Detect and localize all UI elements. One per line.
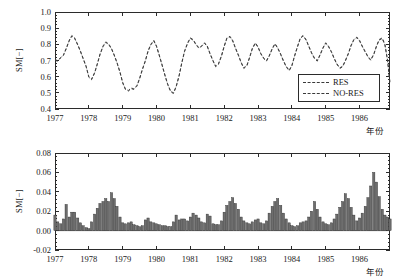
bar: [364, 206, 366, 230]
bar: [161, 226, 163, 231]
bar: [333, 219, 335, 231]
bar: [200, 222, 202, 231]
bar: [268, 213, 270, 230]
bar: [172, 222, 174, 231]
bar: [90, 222, 92, 231]
bar: [386, 217, 388, 231]
bar: [373, 172, 375, 230]
bar: [164, 226, 166, 231]
bar: [170, 227, 172, 231]
bar: [119, 217, 121, 231]
bar: [339, 207, 341, 230]
bar: [82, 226, 84, 231]
bar: [237, 209, 239, 230]
bar: [209, 216, 211, 231]
bar: [138, 227, 140, 231]
bar: [71, 212, 73, 230]
bar: [229, 202, 231, 231]
bar: [310, 211, 312, 230]
bar: [302, 222, 304, 231]
bar: [232, 198, 234, 231]
bar: [144, 220, 146, 231]
bar: [73, 212, 75, 230]
bar: [381, 209, 383, 230]
bar: [116, 206, 118, 230]
bar: [234, 203, 236, 230]
bar: [212, 224, 214, 231]
bar: [389, 219, 391, 231]
bar: [271, 206, 273, 230]
bar: [341, 202, 343, 231]
bar: [183, 219, 185, 231]
bar: [93, 214, 95, 230]
bar: [105, 199, 107, 231]
bar: [77, 218, 79, 231]
bar: [299, 223, 301, 231]
bar: [68, 217, 70, 231]
bar: [347, 199, 349, 231]
bar: [251, 222, 253, 231]
bar: [316, 209, 318, 230]
bar: [327, 225, 329, 231]
bar: [248, 224, 250, 231]
bar: [102, 202, 104, 231]
bar: [384, 215, 386, 231]
bar: [367, 198, 369, 231]
bar: [223, 212, 225, 230]
bar: [215, 225, 217, 231]
bar: [147, 218, 149, 231]
bar: [107, 202, 109, 231]
bar: [263, 224, 265, 231]
bar: [322, 222, 324, 231]
bar: [158, 225, 160, 231]
bar: [130, 222, 132, 231]
bar: [291, 226, 293, 231]
bar: [350, 207, 352, 230]
bar: [85, 228, 87, 231]
bar: [265, 221, 267, 231]
bar: [319, 217, 321, 231]
bar: [282, 213, 284, 230]
bar: [240, 217, 242, 231]
bar: [375, 182, 377, 231]
bar: [178, 220, 180, 231]
bar: [257, 219, 259, 231]
bar: [226, 205, 228, 230]
bar: [175, 215, 177, 231]
bar: [62, 219, 64, 231]
bar: [195, 215, 197, 231]
bar: [356, 221, 358, 231]
bottom-x-axis-label: 年份: [366, 265, 384, 277]
bar: [192, 213, 194, 230]
bar: [203, 223, 205, 231]
bar: [110, 193, 112, 231]
bar: [217, 225, 219, 231]
bar: [206, 214, 208, 230]
bar: [57, 222, 59, 231]
bar: [288, 223, 290, 231]
bar: [54, 215, 56, 231]
bar: [133, 225, 135, 231]
bar: [99, 203, 101, 230]
bar: [141, 226, 143, 231]
bar: [254, 220, 256, 231]
bar: [243, 221, 245, 231]
bar: [378, 197, 380, 231]
bar: [113, 199, 115, 231]
bar: [153, 223, 155, 231]
bar: [167, 227, 169, 231]
bar: [127, 223, 129, 231]
bar: [155, 224, 157, 231]
bar: [189, 217, 191, 231]
bar: [79, 223, 81, 231]
bar: [136, 226, 138, 231]
bar: [277, 199, 279, 231]
bar: [358, 218, 360, 231]
bar: [280, 205, 282, 230]
bar: [274, 202, 276, 231]
bar: [336, 214, 338, 230]
bar: [330, 223, 332, 231]
bar: [220, 221, 222, 231]
bar: [361, 213, 363, 230]
